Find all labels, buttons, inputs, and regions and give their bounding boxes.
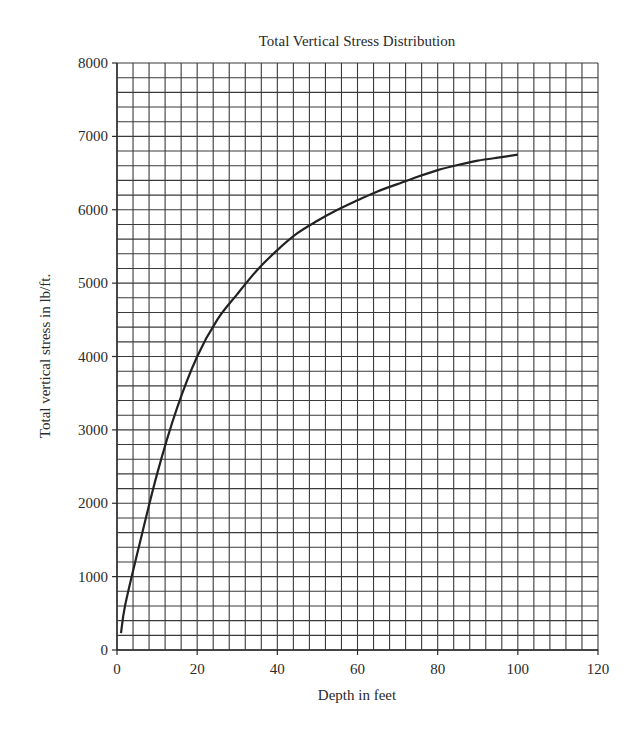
y-tick-label: 2000 <box>78 495 108 511</box>
x-tick-label: 120 <box>587 661 610 677</box>
x-tick-label: 40 <box>270 661 285 677</box>
x-tick-label: 60 <box>350 661 365 677</box>
y-tick-label: 4000 <box>78 349 108 365</box>
x-tick-label: 100 <box>507 661 530 677</box>
x-tick-label: 0 <box>113 661 121 677</box>
data-series-line <box>121 155 518 633</box>
y-tick-label: 3000 <box>78 422 108 438</box>
x-axis-ticks: 020406080100120 <box>113 650 609 677</box>
y-tick-label: 7000 <box>78 128 108 144</box>
y-axis-ticks: 010002000300040005000600070008000 <box>78 55 117 658</box>
y-tick-label: 1000 <box>78 569 108 585</box>
y-tick-label: 6000 <box>78 202 108 218</box>
x-tick-label: 20 <box>190 661 205 677</box>
y-tick-label: 0 <box>101 642 109 658</box>
y-axis-label: Total vertical stress in lb/ft. <box>37 274 53 438</box>
x-axis-label: Depth in feet <box>318 687 397 703</box>
chart-title: Total Vertical Stress Distribution <box>259 33 456 49</box>
y-tick-label: 5000 <box>78 275 108 291</box>
x-tick-label: 80 <box>430 661 445 677</box>
grid <box>117 63 598 650</box>
chart: Total Vertical Stress Distribution 02040… <box>0 0 641 742</box>
y-tick-label: 8000 <box>78 55 108 71</box>
